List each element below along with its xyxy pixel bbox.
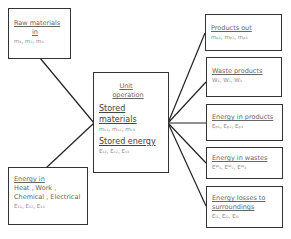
energy-losses-box: Energy losses to surroundings Eₗ₁, Eₗ₂, …	[206, 186, 283, 228]
energy-in-products-vars: Eₚ₁, Eₚ₂, Eₚ₃	[212, 122, 277, 131]
energy-losses-surroundings: surroundings	[212, 203, 277, 212]
unit-operation-box: Unit operation Stored materials mₛ₁, mₛ₂…	[93, 72, 169, 173]
raw-materials-vars: m₁, m₂, m₃	[14, 37, 65, 46]
waste-products-title: Waste products	[212, 67, 276, 76]
energy-losses-title: Energy losses to	[212, 194, 277, 203]
energy-in-wastes-box: Energy in wastes Eᵂ₁, Eᵂ₂, Eᵂ₃	[206, 147, 283, 179]
unit-operation-title-1: Unit	[99, 82, 163, 91]
unit-operation-title-2: operation	[99, 91, 163, 100]
raw-materials-title: Raw materials	[14, 19, 65, 28]
stored-energy-label: Stored energy	[99, 136, 163, 147]
waste-products-box: Waste products W₁, W₂, W₃	[206, 57, 282, 97]
energy-in-products-title: Energy in products	[212, 113, 277, 122]
stored-materials-label: Stored materials	[99, 103, 163, 125]
waste-products-vars: W₁, W₂, W₃	[212, 76, 276, 85]
energy-in-title: Energy in	[14, 175, 82, 184]
energy-in-vars: E₁₁, E₁₂, E₁₃	[14, 202, 82, 211]
stored-energy-vars: Eₛ₁, Eₛ₂, Eₛ₃	[99, 147, 163, 156]
products-out-box: Products out mₚ₁, mₚ₂, mₚ₃	[205, 14, 282, 51]
raw-materials-in: in	[14, 28, 65, 37]
energy-in-wastes-title: Energy in wastes	[212, 154, 277, 163]
energy-in-products-box: Energy in products Eₚ₁, Eₚ₂, Eₚ₃	[206, 104, 283, 141]
energy-in-types-1: Heat , Work ,	[14, 184, 82, 193]
products-out-vars: mₚ₁, mₚ₂, mₚ₃	[211, 33, 276, 42]
energy-in-wastes-vars: Eᵂ₁, Eᵂ₂, Eᵂ₃	[212, 163, 277, 172]
products-out-title: Products out	[211, 24, 276, 33]
energy-losses-vars: Eₗ₁, Eₗ₂, Eₗ₃	[212, 212, 277, 221]
stored-materials-vars: mₛ₁, mₛ₂, mₛ₃	[99, 125, 163, 134]
raw-materials-box: Raw materials in m₁, m₂, m₃	[8, 8, 71, 59]
energy-in-box: Energy in Heat , Work , Chemical , Elect…	[8, 167, 88, 225]
energy-in-types-2: Chemical , Electrical	[14, 193, 82, 202]
